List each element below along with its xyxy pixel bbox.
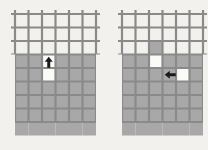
edge-mask-left [10,55,15,126]
shaded-cell [122,55,136,69]
shaded-cell [42,95,56,109]
shaded-cell [176,95,190,109]
shaded-cell [69,109,83,123]
shaded-cell [163,109,177,123]
shaded-cell [136,68,150,82]
shaded-cell [122,122,136,136]
shaded-cell [190,55,204,69]
shaded-cell [163,82,177,96]
lattice-diagram-right [104,0,208,150]
shaded-cell [176,82,190,96]
shaded-cell [69,82,83,96]
shaded-cell [149,41,163,55]
shaded-cell [122,68,136,82]
shaded-cell [56,82,70,96]
empty-cell [149,55,163,69]
shaded-cell [149,68,163,82]
shaded-cell [122,95,136,109]
shaded-cell [42,122,56,136]
shaded-cell [69,95,83,109]
shaded-cell [190,68,204,82]
shaded-cell [29,109,43,123]
shaded-cell [190,95,204,109]
shaded-cell [122,82,136,96]
empty-cell [42,68,56,82]
shaded-cell [176,55,190,69]
shaded-cell [83,68,97,82]
shaded-cell [149,82,163,96]
shaded-cell [56,122,70,136]
shaded-cell [69,55,83,69]
shaded-cell [83,122,97,136]
shaded-cell [190,122,204,136]
shaded-cell [29,82,43,96]
shaded-cell [15,122,29,136]
shaded-cell [163,55,177,69]
shaded-cell [149,95,163,109]
shaded-cell [136,95,150,109]
shaded-cell [56,109,70,123]
shaded-cell [136,109,150,123]
lattice-panel-left [0,0,104,150]
shaded-cell [83,55,97,69]
shaded-cell [122,109,136,123]
shaded-cell [176,109,190,123]
shaded-cell [29,95,43,109]
shaded-cell [190,82,204,96]
shaded-cell [163,122,177,136]
shaded-cell [15,68,29,82]
shaded-cell [56,68,70,82]
edge-mask-left [117,55,122,126]
shaded-cell [15,82,29,96]
shaded-cell [136,55,150,69]
shaded-cell [149,109,163,123]
shaded-cell [83,109,97,123]
shaded-cell [149,122,163,136]
shaded-cell [15,109,29,123]
shaded-cell [42,82,56,96]
lattice-diagram-left [0,0,104,150]
shaded-cell [69,122,83,136]
shaded-cell [136,82,150,96]
shaded-cell [163,95,177,109]
shaded-cell [69,68,83,82]
shaded-cell [29,68,43,82]
shaded-cell [42,109,56,123]
figure-root [0,0,208,150]
shaded-cell [56,55,70,69]
shaded-cell [56,95,70,109]
shaded-cell [15,95,29,109]
edge-mask-right [203,55,208,126]
shaded-cell [136,122,150,136]
shaded-cell [29,122,43,136]
shaded-cell [190,109,204,123]
empty-cell [176,68,190,82]
edge-mask-right [96,55,102,126]
shaded-cell [15,55,29,69]
shaded-cell [29,55,43,69]
lattice-panel-right [104,0,208,150]
shaded-cell [176,122,190,136]
shaded-cell [83,82,97,96]
shaded-cell [83,95,97,109]
